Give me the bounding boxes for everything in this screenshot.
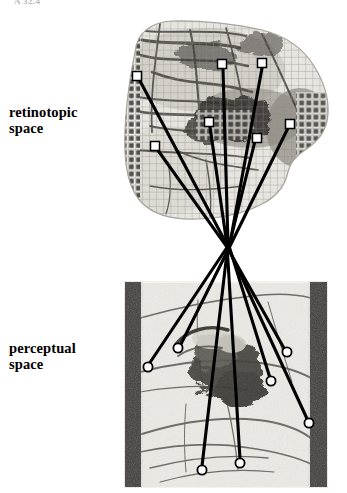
- retinotopic-marker-r6[interactable]: [253, 134, 262, 143]
- perceptual-marker-p6[interactable]: [197, 465, 206, 474]
- retinotopic-marker-r7[interactable]: [151, 142, 160, 151]
- figure-container: A 32.4 retinotopic space perceptual spac…: [0, 0, 347, 493]
- retinotopic-marker-r5[interactable]: [286, 120, 295, 129]
- perceptual-panel: [124, 281, 328, 488]
- perceptual-marker-p4[interactable]: [266, 376, 275, 385]
- perceptual-marker-p1[interactable]: [143, 362, 152, 371]
- perceptual-marker-p2[interactable]: [173, 343, 182, 352]
- retinotopic-space-label: retinotopic space: [9, 104, 78, 136]
- perceptual-marker-p7[interactable]: [235, 458, 244, 467]
- perceptual-marker-p5[interactable]: [304, 418, 313, 427]
- figure-artwork: [0, 0, 347, 493]
- retinotopic-marker-r2[interactable]: [218, 60, 227, 69]
- retinotopic-marker-r1[interactable]: [133, 72, 142, 81]
- perceptual-marker-p3[interactable]: [282, 347, 291, 356]
- retinotopic-marker-r4[interactable]: [205, 118, 214, 127]
- cropped-caption-fragment: A 32.4: [14, 0, 40, 5]
- retinotopic-marker-r3[interactable]: [258, 59, 267, 68]
- perceptual-space-label: perceptual space: [9, 340, 76, 372]
